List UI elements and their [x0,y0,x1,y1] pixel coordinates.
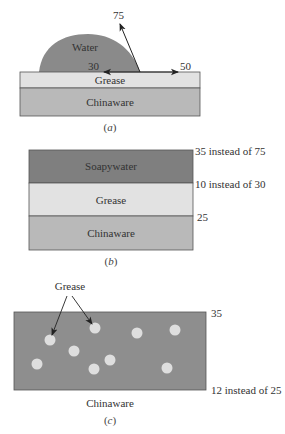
annotation-c-bottom: 12 instead of 25 [211,384,282,396]
grease-label-b: Grease [96,194,127,206]
grease-label-a: Grease [95,74,126,86]
panel-a: Water Grease Chinaware 75 30 50 (a) [20,9,200,134]
water-label: Water [72,41,98,53]
annotation-b-top: 35 instead of 75 [195,145,266,157]
vector-water-grease-value: 30 [88,60,100,72]
grease-callout-label: Grease [55,280,86,292]
vector-grease-air-value: 50 [180,60,192,72]
grease-droplet [132,328,143,339]
panel-b: Soapywater Grease Chinaware 35 instead o… [29,145,266,268]
chinaware-label-a: Chinaware [86,96,134,108]
grease-droplet [45,335,56,346]
surface-tension-diagram: Water Grease Chinaware 75 30 50 (a) Soap… [0,0,285,434]
annotation-b-middle: 10 instead of 30 [195,178,266,190]
chinaware-surface-c [14,312,206,390]
grease-droplet [69,346,80,357]
chinaware-label-b: Chinaware [87,227,135,239]
grease-droplet [32,359,43,370]
caption-b: (b) [105,255,118,268]
vector-water-air-value: 75 [113,9,125,21]
soapywater-label: Soapywater [85,160,137,172]
panel-c: Grease 35 12 instead of 25 Chinaware (c) [14,280,282,427]
annotation-c-top: 35 [211,307,223,319]
annotation-b-bottom: 25 [197,211,209,223]
caption-a: (a) [104,121,117,134]
grease-droplet [89,364,100,375]
grease-droplet [105,355,116,366]
grease-droplet [90,323,101,334]
caption-c: (c) [104,414,117,427]
grease-droplet [162,363,173,374]
chinaware-label-c: Chinaware [86,397,134,409]
grease-droplet [170,325,181,336]
